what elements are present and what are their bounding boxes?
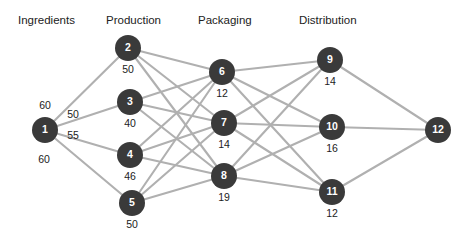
network-diagram: 60505560 1250340446550612714819914101611… (0, 0, 471, 244)
node-id-label-1: 1 (42, 123, 48, 135)
node-id-label-3: 3 (127, 95, 133, 107)
edge-layer (45, 48, 438, 203)
edge-label-e1-2: 60 (39, 99, 51, 111)
node-8[interactable]: 819 (211, 163, 237, 203)
node-id-label-4: 4 (127, 148, 133, 160)
node-id-label-8: 8 (221, 169, 227, 181)
node-4[interactable]: 446 (117, 142, 143, 182)
network-svg: 60505560 1250340446550612714819914101611… (0, 0, 471, 244)
node-7[interactable]: 714 (211, 110, 237, 150)
node-value-label-2: 50 (122, 63, 134, 75)
column-header-production: Production (106, 14, 161, 26)
edge-11-12 (332, 130, 438, 192)
node-id-label-9: 9 (327, 53, 333, 65)
node-value-label-3: 40 (124, 117, 136, 129)
node-layer: 12503404465506127148199141016111212 (32, 35, 451, 230)
node-id-label-2: 2 (125, 41, 131, 53)
node-1[interactable]: 1 (32, 117, 58, 143)
node-id-label-10: 10 (326, 120, 338, 132)
node-value-label-7: 14 (218, 138, 230, 150)
edge-7-10 (224, 123, 332, 127)
node-id-label-5: 5 (129, 196, 135, 208)
edge-label-e1-4: 55 (67, 129, 79, 141)
node-2[interactable]: 250 (115, 35, 141, 75)
edge-1-2 (45, 48, 128, 130)
node-value-label-6: 12 (216, 87, 228, 99)
node-id-label-7: 7 (221, 116, 227, 128)
column-header-layer: IngredientsProductionPackagingDistributi… (18, 14, 357, 26)
edge-9-12 (330, 60, 438, 130)
node-value-label-9: 14 (324, 75, 336, 87)
column-header-ingredients: Ingredients (18, 14, 75, 26)
node-6[interactable]: 612 (209, 59, 235, 99)
node-value-label-5: 50 (126, 218, 138, 230)
edge-label-e1-3: 50 (67, 108, 79, 120)
node-5[interactable]: 550 (119, 190, 145, 230)
node-id-label-12: 12 (432, 123, 444, 135)
node-value-label-11: 12 (326, 207, 338, 219)
node-12[interactable]: 12 (425, 117, 451, 143)
node-value-label-4: 46 (124, 170, 136, 182)
node-id-label-6: 6 (219, 65, 225, 77)
node-3[interactable]: 340 (117, 89, 143, 129)
edge-8-11 (224, 176, 332, 192)
node-id-label-11: 11 (326, 185, 337, 197)
edge-label-e1-5: 60 (38, 153, 50, 165)
node-11[interactable]: 1112 (319, 179, 345, 219)
edge-3-6 (130, 72, 222, 102)
edge-1-5 (45, 130, 132, 203)
column-header-packaging: Packaging (198, 14, 252, 26)
node-value-label-8: 19 (218, 191, 230, 203)
edge-10-12 (332, 127, 438, 130)
node-9[interactable]: 914 (317, 47, 343, 87)
node-value-label-10: 16 (326, 142, 338, 154)
node-10[interactable]: 1016 (319, 114, 345, 154)
column-header-distribution: Distribution (299, 14, 357, 26)
edge-1-4 (45, 130, 130, 155)
edge-5-8 (132, 176, 224, 203)
